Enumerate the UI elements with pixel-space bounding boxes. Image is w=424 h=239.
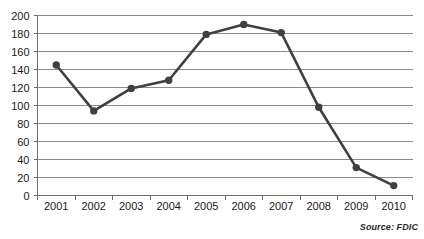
data-point-marker xyxy=(53,61,60,68)
y-tick-label: 140 xyxy=(11,64,29,76)
data-point-marker xyxy=(128,85,135,92)
data-point-marker xyxy=(353,164,360,171)
y-tick-label: 40 xyxy=(17,154,29,166)
source-note: Source: FDIC xyxy=(360,222,418,232)
y-tick-label: 120 xyxy=(11,82,29,94)
x-tick-label: 2008 xyxy=(307,200,331,212)
line-chart-plot: 020406080100120140160180200 200120022003… xyxy=(0,0,424,239)
x-tick-label: 2010 xyxy=(382,200,406,212)
y-tick-label: 60 xyxy=(17,136,29,148)
x-axis-tick-marks xyxy=(38,196,413,200)
y-tick-label: 80 xyxy=(17,118,29,130)
x-tick-label: 2009 xyxy=(344,200,368,212)
x-tick-label: 2004 xyxy=(157,200,181,212)
gridlines xyxy=(38,16,413,178)
data-point-marker xyxy=(240,21,247,28)
y-tick-label: 0 xyxy=(23,190,29,202)
x-tick-label: 2002 xyxy=(82,200,106,212)
y-axis-tick-marks xyxy=(34,16,38,196)
y-tick-label: 160 xyxy=(11,46,29,58)
x-tick-label: 2005 xyxy=(194,200,218,212)
data-point-marker xyxy=(278,29,285,36)
data-point-marker xyxy=(203,31,210,38)
x-tick-label: 2007 xyxy=(269,200,293,212)
x-axis-tick-labels: 2001200220032004200520062007200820092010 xyxy=(44,200,406,212)
data-point-marker xyxy=(390,182,397,189)
data-point-marker xyxy=(315,104,322,111)
data-point-marker xyxy=(165,77,172,84)
y-tick-label: 200 xyxy=(11,10,29,22)
x-tick-label: 2006 xyxy=(232,200,256,212)
x-tick-label: 2001 xyxy=(44,200,68,212)
chart-container: 020406080100120140160180200 200120022003… xyxy=(0,0,424,239)
x-tick-label: 2003 xyxy=(119,200,143,212)
y-tick-label: 20 xyxy=(17,172,29,184)
y-tick-label: 180 xyxy=(11,28,29,40)
y-axis-tick-labels: 020406080100120140160180200 xyxy=(11,10,29,202)
data-point-marker xyxy=(90,107,97,114)
y-tick-label: 100 xyxy=(11,100,29,112)
